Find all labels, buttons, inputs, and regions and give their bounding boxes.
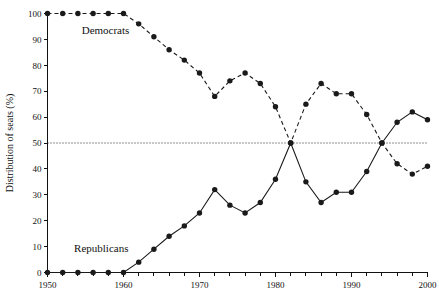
data-point-marker (288, 140, 293, 145)
data-point-marker (60, 11, 65, 16)
data-point-marker (273, 104, 278, 109)
data-point-marker (364, 112, 369, 117)
x-tick-label: 2000 (419, 280, 438, 290)
data-point-marker (106, 270, 111, 275)
democrats-series-line (48, 14, 428, 175)
republicans-series-label: Republicans (74, 242, 128, 254)
data-point-marker (45, 11, 50, 16)
data-point-marker (60, 270, 65, 275)
data-point-marker (90, 11, 95, 16)
democrats-series-label: Democrats (82, 24, 130, 36)
data-point-marker (318, 81, 323, 86)
data-point-marker (121, 270, 126, 275)
data-point-marker (166, 47, 171, 52)
data-point-marker (394, 120, 399, 125)
data-point-marker (121, 11, 126, 16)
x-tick-label: 1980 (267, 280, 286, 290)
data-point-marker (273, 177, 278, 182)
x-tick-label: 1950 (39, 280, 58, 290)
data-point-marker (242, 210, 247, 215)
data-point-marker (106, 11, 111, 16)
data-point-marker (425, 117, 430, 122)
data-point-marker (151, 34, 156, 39)
data-point-marker (349, 190, 354, 195)
data-point-marker (136, 21, 141, 26)
data-point-marker (425, 164, 430, 169)
data-point-marker (410, 171, 415, 176)
x-tick-label: 1960 (115, 280, 134, 290)
data-point-marker (303, 101, 308, 106)
data-point-marker (349, 91, 354, 96)
y-axis-title: Distribution of seats (%) (4, 94, 16, 193)
x-axis-tick-labels: 195019601970198019902000 (39, 280, 438, 290)
x-axis-tick-marks (48, 273, 428, 278)
data-point-marker (394, 161, 399, 166)
data-point-marker (75, 270, 80, 275)
data-point-marker (90, 270, 95, 275)
line-chart: 0102030405060708090100 19501960197019801… (0, 0, 439, 297)
y-tick-label: 0 (37, 268, 42, 278)
data-point-marker (303, 179, 308, 184)
data-point-marker (166, 234, 171, 239)
y-tick-label: 20 (33, 216, 43, 226)
x-tick-label: 1990 (343, 280, 362, 290)
data-point-marker (258, 81, 263, 86)
data-point-marker (318, 200, 323, 205)
data-point-marker (197, 70, 202, 75)
y-tick-label: 100 (28, 9, 42, 19)
data-point-marker (212, 187, 217, 192)
data-point-marker (182, 223, 187, 228)
y-tick-label: 60 (33, 112, 43, 122)
y-tick-label: 40 (33, 164, 43, 174)
y-axis-tick-labels: 0102030405060708090100 (28, 9, 42, 278)
data-point-marker (410, 109, 415, 114)
x-tick-label: 1970 (191, 280, 210, 290)
y-tick-label: 30 (33, 190, 43, 200)
y-tick-label: 90 (33, 35, 43, 45)
data-point-marker (212, 94, 217, 99)
data-point-marker (334, 91, 339, 96)
y-axis-tick-marks (44, 14, 48, 273)
y-tick-label: 70 (33, 86, 43, 96)
data-point-marker (364, 169, 369, 174)
y-tick-label: 10 (33, 242, 43, 252)
data-point-marker (197, 210, 202, 215)
y-tick-label: 50 (33, 138, 43, 148)
data-point-marker (182, 57, 187, 62)
data-point-marker (258, 200, 263, 205)
data-point-marker (75, 11, 80, 16)
y-tick-label: 80 (33, 61, 43, 71)
data-point-marker (379, 140, 384, 145)
data-point-marker (45, 270, 50, 275)
data-point-marker (227, 202, 232, 207)
data-point-marker (136, 259, 141, 264)
data-point-marker (151, 246, 156, 251)
data-point-marker (334, 190, 339, 195)
data-point-marker (227, 78, 232, 83)
chart-container: 0102030405060708090100 19501960197019801… (0, 0, 439, 297)
data-point-marker (242, 70, 247, 75)
